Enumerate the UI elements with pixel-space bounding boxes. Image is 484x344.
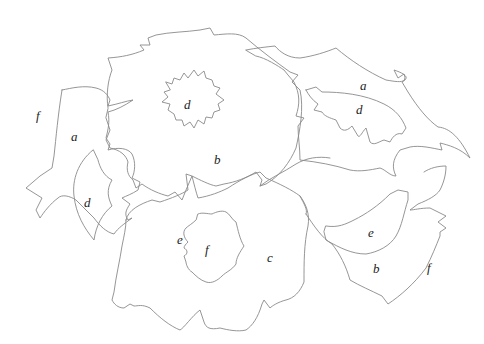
right-lower-leaf-outline (306, 166, 446, 304)
left-leaf-inner-outline (74, 150, 112, 240)
top-flower-outline (106, 28, 302, 200)
label-f-left: f (36, 108, 42, 123)
flower-diagram: f a d d b a d e f c e b f (0, 0, 484, 344)
label-f-bottom-center: f (205, 242, 211, 257)
label-e-right-lower-inner: e (368, 225, 374, 240)
diagram-canvas: f a d d b a d e f c e b f (0, 0, 484, 344)
bottom-flower-outline (112, 172, 309, 331)
label-b-top-flower: b (214, 152, 221, 167)
label-c-bottom-flower: c (267, 250, 273, 265)
label-f-right: f (427, 260, 433, 275)
label-a-left-leaf: a (71, 129, 78, 144)
label-a-right-leaf: a (360, 78, 367, 93)
label-b-right-lower-leaf: b (373, 261, 380, 276)
label-d-top-center: d (184, 97, 191, 112)
top-flower-center-outline (162, 70, 224, 128)
label-e-bottom-ring: e (177, 232, 183, 247)
bottom-flower-center-outline (184, 211, 244, 282)
label-d-left-leaf-inner: d (84, 195, 91, 210)
label-d-right-leaf-inner: d (356, 102, 363, 117)
right-lower-leaf-inner-outline (324, 190, 408, 254)
